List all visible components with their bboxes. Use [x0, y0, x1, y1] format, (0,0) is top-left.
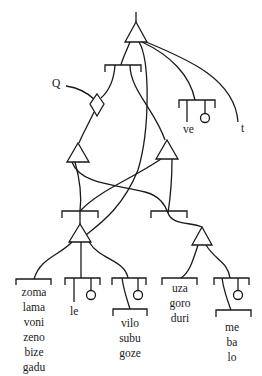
word-zeno: zeno — [23, 331, 45, 343]
bracket-list1: zoma lama voni zeno bize gadu — [16, 242, 72, 374]
top-triangle-node — [125, 12, 147, 42]
label-t: t — [241, 122, 245, 134]
le-circle-icon — [87, 291, 96, 300]
word-subu: subu — [119, 332, 141, 344]
word-lo: lo — [228, 351, 237, 363]
q-node: Q — [52, 65, 115, 143]
word-gadu: gadu — [23, 361, 46, 374]
left-bottom-triangle-node — [69, 211, 91, 242]
label-le: le — [70, 305, 78, 317]
edge-top-to-left-bracket — [80, 42, 147, 240]
tree-diagram: ve t Q — [0, 0, 262, 376]
word-goro: goro — [169, 297, 190, 310]
edge-top-to-t — [146, 42, 238, 122]
word-ba: ba — [227, 336, 238, 348]
word-goze: goze — [119, 347, 141, 360]
ve-bracket: ve — [179, 100, 215, 135]
word-uza: uza — [172, 282, 188, 294]
label-ve: ve — [183, 123, 194, 135]
bracket-list2: vilo subu goze — [89, 242, 147, 360]
edge-top-to-ve — [142, 42, 195, 100]
word-lama: lama — [23, 301, 45, 313]
top-bracket — [105, 42, 141, 72]
word-zoma: zoma — [22, 286, 47, 298]
vilo-circle-icon — [134, 291, 143, 300]
bracket-list3: uza goro duri — [162, 245, 198, 324]
bracket-list4: me ba lo — [206, 245, 251, 363]
edge-righttri-to-rightbracket — [168, 159, 172, 213]
right-bottom-triangle-node — [192, 227, 212, 245]
word-duri: duri — [171, 312, 190, 324]
right-mid-triangle-node — [156, 140, 178, 159]
word-vilo: vilo — [121, 317, 139, 329]
me-circle-icon — [234, 291, 243, 300]
word-voni: voni — [24, 316, 44, 328]
edge-righttri-to-leftbracket — [80, 159, 161, 211]
bracket-le: le — [65, 242, 100, 317]
ve-circle-icon — [201, 114, 210, 123]
left-mid-triangle-node — [67, 143, 89, 162]
label-q: Q — [52, 77, 61, 89]
word-me: me — [225, 321, 239, 333]
word-bize: bize — [24, 346, 43, 358]
